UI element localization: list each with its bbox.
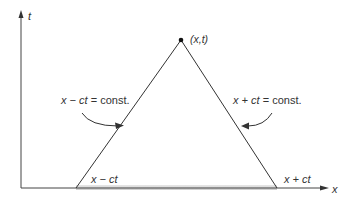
right-characteristic-line bbox=[181, 40, 277, 188]
t-axis bbox=[19, 10, 24, 188]
apex-point bbox=[179, 38, 184, 43]
x-axis-label: x bbox=[331, 183, 338, 195]
x-axis-arrow-icon bbox=[320, 186, 329, 191]
left-base-label: x − ct bbox=[90, 173, 119, 185]
characteristics-diagram: t x (x,t) x − ct = const. x + ct = const… bbox=[0, 0, 339, 205]
right-base-label: x + ct bbox=[283, 173, 312, 185]
left-curved-arrow-icon bbox=[82, 113, 124, 129]
right-curved-arrow-icon bbox=[241, 113, 272, 130]
apex-label: (x,t) bbox=[190, 33, 208, 45]
right-characteristic-label: x + ct = const. bbox=[232, 94, 302, 106]
left-characteristic-label: x − ct = const. bbox=[60, 94, 130, 106]
t-axis-arrow-icon bbox=[19, 10, 24, 18]
t-axis-label: t bbox=[28, 10, 32, 22]
left-characteristic-line bbox=[76, 40, 181, 188]
